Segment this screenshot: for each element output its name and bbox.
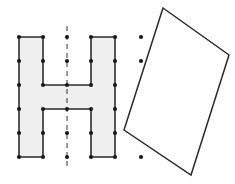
grid-dot <box>65 59 69 63</box>
grid-dot <box>41 35 45 39</box>
grid-dot <box>65 83 69 87</box>
grid-dot <box>113 83 117 87</box>
grid-dot <box>17 107 21 111</box>
grid-dot <box>139 59 143 63</box>
grid-dot <box>17 83 21 87</box>
grid-dot <box>65 107 69 111</box>
grid-dot <box>113 35 117 39</box>
grid-dot <box>65 155 69 159</box>
diagram-svg <box>0 0 235 184</box>
grid-dot <box>41 107 45 111</box>
grid-dot <box>65 131 69 135</box>
grid-dot <box>41 131 45 135</box>
grid-dot <box>89 155 93 159</box>
grid-dot <box>65 35 69 39</box>
grid-dot <box>89 59 93 63</box>
grid-dot <box>41 155 45 159</box>
grid-dot <box>41 83 45 87</box>
grid-dot <box>89 83 93 87</box>
grid-dot <box>41 59 45 63</box>
grid-dot <box>113 155 117 159</box>
grid-dot <box>89 131 93 135</box>
grid-dot <box>17 155 21 159</box>
grid-dot <box>113 107 117 111</box>
grid-dot <box>17 59 21 63</box>
grid-dot <box>113 131 117 135</box>
grid-dot <box>17 35 21 39</box>
rotated-quadrilateral <box>124 8 229 175</box>
diagram-canvas <box>0 0 235 184</box>
grid-dot <box>89 107 93 111</box>
grid-dot <box>89 35 93 39</box>
grid-dot <box>17 131 21 135</box>
grid-dot <box>139 35 143 39</box>
grid-dot <box>139 155 143 159</box>
grid-dot <box>113 59 117 63</box>
